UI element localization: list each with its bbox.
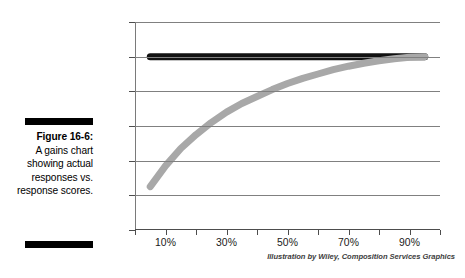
caption-rule-top — [25, 118, 93, 125]
x-axis-minor-tick — [135, 230, 136, 235]
y-axis-tick — [129, 161, 135, 162]
x-axis-minor-tick — [379, 230, 380, 235]
chart-series-response-scores — [150, 57, 425, 187]
figure-caption: Figure 16-6: A gains chart showing actua… — [0, 130, 93, 198]
x-axis-label: 70% — [327, 237, 371, 248]
figure-caption-text: A gains chart showing actual responses v… — [0, 144, 93, 198]
x-axis-tick — [227, 230, 228, 235]
x-axis-minor-tick — [440, 230, 441, 235]
chart-plot-area: 0%20%40%60%80%100%120%10%30%50%70%90% — [135, 22, 440, 230]
x-axis-label: 90% — [388, 237, 432, 248]
x-axis-minor-tick — [318, 230, 319, 235]
gridline-y — [135, 91, 440, 92]
caption-rule-bottom — [25, 241, 93, 248]
gridline-y — [135, 57, 440, 58]
y-axis-tick — [129, 126, 135, 127]
x-axis-tick — [410, 230, 411, 235]
y-axis-tick — [129, 91, 135, 92]
x-axis-minor-tick — [257, 230, 258, 235]
x-axis-label: 50% — [266, 237, 310, 248]
x-axis-tick — [166, 230, 167, 235]
x-axis-label: 30% — [205, 237, 249, 248]
x-axis-label: 10% — [144, 237, 188, 248]
x-axis-minor-tick — [196, 230, 197, 235]
x-axis-tick — [288, 230, 289, 235]
figure-container: Figure 16-6: A gains chart showing actua… — [0, 0, 465, 278]
gridline-y — [135, 126, 440, 127]
y-axis-tick — [129, 57, 135, 58]
y-axis-tick — [129, 195, 135, 196]
gridline-y — [135, 195, 440, 196]
gridline-y — [135, 22, 440, 23]
figure-number: Figure 16-6: — [0, 130, 93, 144]
x-axis-tick — [349, 230, 350, 235]
illustration-credit: Illustration by Wiley, Composition Servi… — [267, 252, 455, 261]
gridline-y — [135, 161, 440, 162]
y-axis-tick — [129, 22, 135, 23]
